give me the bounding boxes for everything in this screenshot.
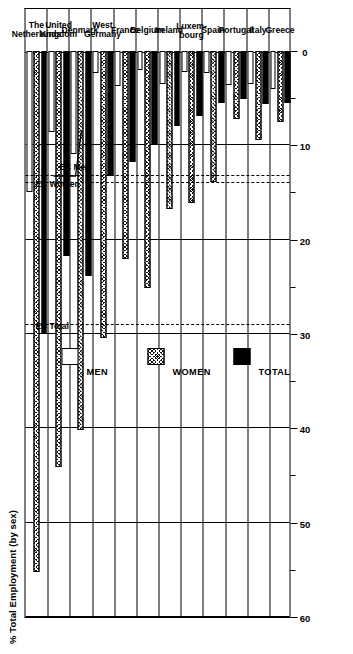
tick-15 xyxy=(290,193,295,194)
legend-label-women: WOMEN xyxy=(172,367,210,377)
tick-35 xyxy=(290,381,295,382)
tick-label-0: 0 xyxy=(302,47,307,58)
category-label-greece: Greece xyxy=(269,9,291,52)
legend: MENWOMENTOTAL xyxy=(25,53,289,617)
tick-label-40: 40 xyxy=(299,424,310,435)
category-label-text: Greece xyxy=(265,26,294,35)
tick-25 xyxy=(290,287,295,288)
category-label-luxembourg: Luxem- bourg xyxy=(180,9,202,52)
category-label-text: Italy xyxy=(249,26,266,35)
tick-60 xyxy=(290,617,297,618)
tick-label-60: 60 xyxy=(299,613,310,624)
category-axis: The NetherlandsUnited KingdomDenmarkWest… xyxy=(24,8,290,52)
legend-swatch-men xyxy=(61,348,78,365)
legend-label-men: MEN xyxy=(86,367,108,377)
tick-30 xyxy=(290,334,297,335)
tick-5 xyxy=(290,98,295,99)
tick-40 xyxy=(290,428,297,429)
tick-label-10: 10 xyxy=(299,141,310,152)
category-label-portugal: Portugal xyxy=(225,9,247,52)
value-axis-ticks: 0102030405060 xyxy=(290,52,318,618)
axis-title: % Total Employment (by sex) xyxy=(6,510,17,644)
tick-label-50: 50 xyxy=(299,518,310,529)
tick-45 xyxy=(290,476,295,477)
legend-label-total: TOTAL xyxy=(258,367,290,377)
tick-10 xyxy=(290,145,297,146)
chart-stage: % Total Employment (by sex) EC TotalEC W… xyxy=(0,0,353,654)
legend-swatch-total xyxy=(233,348,250,365)
plot-area: EC TotalEC WomenEC MenMENWOMENTOTAL xyxy=(24,52,290,618)
tick-55 xyxy=(290,570,295,571)
tick-50 xyxy=(290,523,297,524)
tick-label-30: 30 xyxy=(299,330,310,341)
tick-20 xyxy=(290,240,297,241)
legend-swatch-women xyxy=(147,348,164,365)
tick-label-20: 20 xyxy=(299,235,310,246)
